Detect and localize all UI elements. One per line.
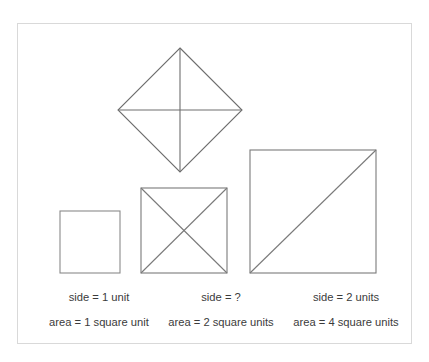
caption-middle-side: side = ?: [158, 292, 284, 303]
caption-middle-area: area = 2 square units: [158, 317, 284, 328]
caption-layer: side = 1 unit area = 1 square unit side …: [0, 0, 429, 362]
caption-column-small: side = 1 unit area = 1 square unit: [33, 292, 165, 328]
caption-large-side: side = 2 units: [282, 292, 410, 303]
figure-root: side = 1 unit area = 1 square unit side …: [0, 0, 429, 362]
caption-column-large: side = 2 units area = 4 square units: [282, 292, 410, 328]
caption-small-area: area = 1 square unit: [33, 317, 165, 328]
caption-small-side: side = 1 unit: [33, 292, 165, 303]
caption-column-middle: side = ? area = 2 square units: [158, 292, 284, 328]
caption-large-area: area = 4 square units: [282, 317, 410, 328]
